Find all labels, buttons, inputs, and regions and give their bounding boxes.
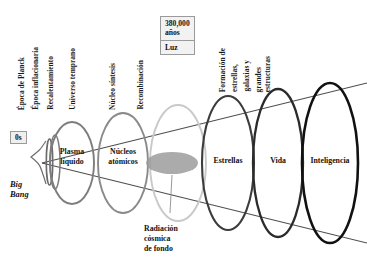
cmb-caption-line1: Radiación <box>144 224 178 234</box>
ring-label-plasma-line2: líquido <box>50 157 94 167</box>
ring-label-plasma: Plasma líquido <box>50 147 94 166</box>
big-bang-label: Big Bang <box>10 180 29 200</box>
formation-label-line-4: grandes <box>255 67 262 92</box>
epoch-label-nucleosintesis: Núcleo síntesis <box>109 63 116 110</box>
ring-label-estrellas-line1: Estrellas <box>203 156 253 166</box>
time-marker-box-group: 380,000 años Luz <box>160 16 195 55</box>
cosmic-history-diagram: Época de Planck Época inflacionaria Reca… <box>0 0 367 278</box>
formation-label-line-1: Formación de <box>219 48 226 92</box>
time-marker-box: 380,000 años <box>160 16 195 41</box>
epoch-label-recalentamiento: Recalentamiento <box>47 56 54 110</box>
cmb-blob <box>146 152 198 174</box>
ring-label-vida: Vida <box>257 156 299 166</box>
ring-label-plasma-line1: Plasma <box>50 147 94 157</box>
cmb-caption: Radiación cósmica de fondo <box>144 224 178 254</box>
big-bang-line1: Big <box>10 180 29 190</box>
light-marker-box: Luz <box>160 41 195 55</box>
ring-label-vida-line1: Vida <box>257 156 299 166</box>
time-marker-line2: años <box>165 28 190 37</box>
ring-label-estrellas: Estrellas <box>203 156 253 166</box>
big-bang-line2: Bang <box>10 190 29 200</box>
ring-label-nucleos-line1: Núcleos <box>99 147 147 157</box>
formation-label-line-3: galaxias y <box>243 60 250 92</box>
ring-label-nucleos-line2: atómicos <box>99 157 147 167</box>
epoch-label-universo-temprano: Universo temprano <box>69 48 76 110</box>
ring-label-inteligencia-line1: Inteligencia <box>301 156 359 166</box>
epoch-label-planck: Época de Planck <box>18 57 25 110</box>
formation-label-line-5: estructuras <box>264 56 271 92</box>
ring-label-inteligencia: Inteligencia <box>301 156 359 166</box>
formation-label-line-2: estrellas, <box>231 64 238 92</box>
cmb-caption-line3: de fondo <box>144 244 178 254</box>
cmb-caption-line2: cósmica <box>144 234 178 244</box>
epoch-label-recombinacion: Recombinación <box>137 60 144 110</box>
cmb-leader-line <box>170 175 172 213</box>
zero-time-box: 0s <box>10 131 27 144</box>
ring-label-nucleos: Núcleos atómicos <box>99 147 147 166</box>
epoch-label-inflacionaria: Época inflacionaria <box>32 47 39 110</box>
time-marker-line1: 380,000 <box>165 19 190 28</box>
